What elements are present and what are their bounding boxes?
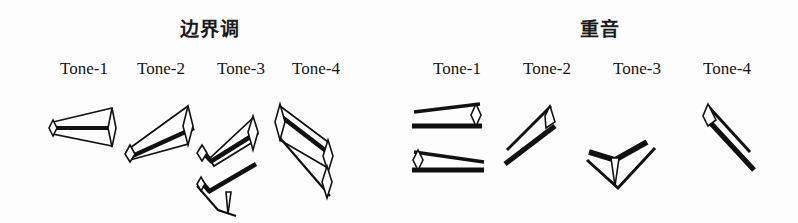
group-title-boundary-tone: 边界调 xyxy=(180,14,240,41)
tone-label-boundary-tone-1: Tone-1 xyxy=(60,59,108,79)
contour-boundary-tone-2 xyxy=(124,100,204,166)
tone-label-boundary-tone-4: Tone-4 xyxy=(292,59,340,79)
tone-label-boundary-tone-3: Tone-3 xyxy=(217,59,265,79)
contour-boundary-tone-1 xyxy=(48,100,124,156)
group-title-accent: 重音 xyxy=(580,14,620,41)
contour-accent-tone-3 xyxy=(585,138,681,204)
contour-accent-tone-1 xyxy=(408,100,500,180)
tone-label-accent-tone-2: Tone-2 xyxy=(523,59,571,79)
contour-boundary-tone-4 xyxy=(268,98,350,210)
tone-label-accent-tone-4: Tone-4 xyxy=(703,59,751,79)
tone-label-accent-tone-1: Tone-1 xyxy=(433,59,481,79)
tone-contour-figure: 边界调 重音 Tone-1 Tone-2 Tone-3 Tone-4 Tone-… xyxy=(0,0,798,223)
contour-accent-tone-2 xyxy=(503,100,583,180)
contour-accent-tone-4 xyxy=(694,100,774,182)
tone-label-boundary-tone-2: Tone-2 xyxy=(137,59,185,79)
tone-label-accent-tone-3: Tone-3 xyxy=(613,59,661,79)
